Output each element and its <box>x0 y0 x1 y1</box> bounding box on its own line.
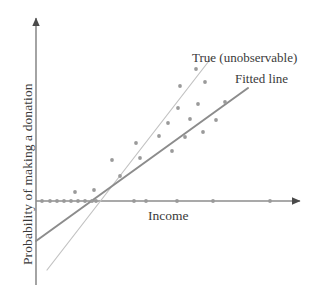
scatter-point <box>55 199 59 203</box>
scatter-point <box>175 199 179 203</box>
scatter-point <box>83 199 87 203</box>
scatter-point <box>157 134 161 138</box>
scatter-point <box>183 135 187 139</box>
scatter-point <box>73 190 77 194</box>
scatter-point <box>170 149 174 153</box>
scatter-point <box>92 188 96 192</box>
scatter-point <box>214 118 218 122</box>
scatter-point <box>94 199 98 203</box>
chart-canvas <box>0 0 319 300</box>
fitted-line-label: Fitted line <box>235 71 288 87</box>
scatter-point <box>268 199 272 203</box>
scatter-point <box>211 199 215 203</box>
scatter-point <box>40 199 44 203</box>
scatter-point <box>178 84 182 88</box>
scatter-point <box>134 141 138 145</box>
scatter-point <box>110 158 114 162</box>
scatter-point <box>194 67 198 71</box>
scatter-point <box>90 199 94 203</box>
true-line <box>47 57 212 270</box>
scatter-point <box>201 130 205 134</box>
y-axis-label: Probability of making a donation <box>20 83 36 265</box>
true-line-label: True (unobservable) <box>192 50 297 66</box>
scatter-point <box>223 100 227 104</box>
scatter-points-group <box>40 67 272 203</box>
regression-lines-group <box>36 57 248 270</box>
scatter-point <box>48 199 52 203</box>
scatter-point <box>144 199 148 203</box>
scatter-point <box>203 80 207 84</box>
scatter-point <box>166 121 170 125</box>
scatter-point <box>132 199 136 203</box>
scatter-point <box>196 102 200 106</box>
scatter-point <box>138 156 142 160</box>
scatter-point <box>188 117 192 121</box>
x-axis-label: Income <box>148 208 188 224</box>
fitted-line <box>36 88 248 241</box>
scatter-point <box>62 199 66 203</box>
scatter-point <box>176 106 180 110</box>
scatter-chart: Probability of making a donation Income … <box>0 0 319 300</box>
scatter-point <box>118 174 122 178</box>
scatter-point <box>69 199 73 203</box>
scatter-point <box>76 199 80 203</box>
